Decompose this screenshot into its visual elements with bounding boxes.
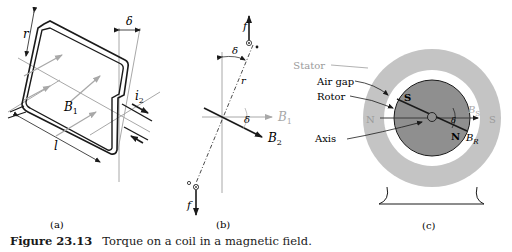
b1-label: B1 (63, 100, 78, 116)
conductor-dot-icon (256, 46, 259, 49)
panel-c-label: (c) (422, 220, 436, 231)
b2-vector (204, 108, 262, 137)
panel-b-label: (b) (216, 219, 230, 230)
stator-south-pole: S (489, 114, 496, 125)
figure-caption-text: Torque on a coil in a magnetic field. (102, 234, 311, 248)
delta-label-top: δ (232, 45, 238, 56)
delta-label: δ (451, 116, 456, 125)
rotor-shaft (428, 113, 437, 122)
delta-label-mid: δ (244, 114, 250, 125)
b1-label: B1 (277, 110, 292, 126)
field-line (8, 80, 60, 112)
delta-label: δ (126, 15, 133, 28)
f-label-top: f (242, 20, 249, 33)
conductor-dot-center (248, 42, 250, 44)
panel-a-coil-diagram: r δ B1 i2 l (a) (8, 12, 160, 230)
l-label: l (54, 139, 58, 153)
r-label: r (241, 75, 247, 86)
figure-caption: Figure 23.13Torque on a coil in a magnet… (10, 234, 312, 248)
f-label-bottom: f (186, 199, 193, 212)
i2-label: i2 (135, 89, 144, 105)
figure-canvas: r δ B1 i2 l (a) f f δ r δ B1 B2 ( (0, 0, 512, 252)
motor-base (379, 187, 484, 204)
panel-c-motor-diagram: Stator Air gap Rotor Axis N S S N BS BR … (293, 49, 501, 231)
stator-north-pole: N (366, 114, 375, 125)
b1-field-arrow (70, 76, 100, 102)
conductor-cross-mark (194, 185, 197, 188)
stator-label: Stator (293, 60, 325, 71)
rotor-north-pole: N (451, 131, 460, 142)
panel-a-label: (a) (50, 219, 64, 230)
air-gap-label: Air gap (316, 76, 354, 87)
coil-inner-winding (26, 28, 123, 150)
stator-callout-leader (331, 65, 368, 68)
conductor-cross-icon (187, 181, 190, 184)
rotor-south-pole: S (404, 92, 411, 103)
panel-b-force-diagram: f f δ r δ B1 B2 (b) (186, 16, 292, 230)
figure-number: Figure 23.13 (10, 234, 92, 248)
rotor-label: Rotor (317, 91, 346, 102)
coil-lead-left (8, 112, 26, 118)
b2-label: B2 (267, 131, 282, 147)
axis-label: Axis (314, 133, 336, 144)
delta-arc-top (222, 56, 245, 60)
